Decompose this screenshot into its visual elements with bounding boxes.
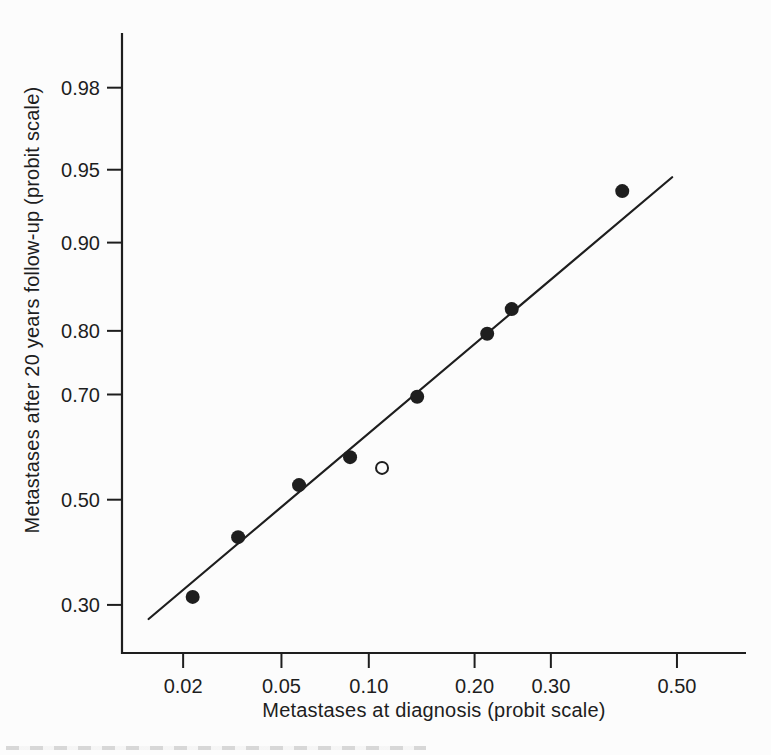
scan-noise-artifact <box>6 746 426 750</box>
data-point-open <box>376 462 388 474</box>
data-point-filled <box>231 530 245 544</box>
x-tick-label: 0.02 <box>164 675 203 697</box>
chart-canvas: 0.020.050.100.200.300.500.980.950.900.80… <box>0 0 771 755</box>
x-tick-label: 0.20 <box>455 675 494 697</box>
data-point-filled <box>343 450 357 464</box>
x-tick-label: 0.05 <box>262 675 301 697</box>
y-tick-label: 0.98 <box>61 77 100 99</box>
x-tick-label: 0.50 <box>657 675 696 697</box>
x-tick-label: 0.10 <box>349 675 388 697</box>
y-tick-label: 0.80 <box>61 320 100 342</box>
x-tick-label: 0.30 <box>531 675 570 697</box>
axes-spines <box>122 33 746 653</box>
y-axis-title: Metastases after 20 years follow-up (pro… <box>21 87 44 534</box>
data-point-filled <box>480 327 494 341</box>
y-tick-label: 0.95 <box>61 159 100 181</box>
x-axis-title: Metastases at diagnosis (probit scale) <box>122 699 746 722</box>
data-point-filled <box>505 302 519 316</box>
y-tick-label: 0.90 <box>61 232 100 254</box>
y-tick-label: 0.70 <box>61 384 100 406</box>
data-point-filled <box>410 390 424 404</box>
y-tick-label: 0.30 <box>61 594 100 616</box>
data-point-filled <box>292 478 306 492</box>
data-point-filled <box>615 184 629 198</box>
data-point-filled <box>186 590 200 604</box>
probit-scatter-figure: 0.020.050.100.200.300.500.980.950.900.80… <box>0 0 771 755</box>
y-tick-label: 0.50 <box>61 489 100 511</box>
